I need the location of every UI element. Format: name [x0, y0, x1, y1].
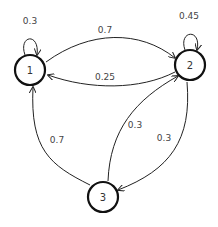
- edge-label: 0.3: [23, 16, 37, 26]
- edge-label: 0.7: [50, 135, 64, 145]
- edge-2-3: 0.3: [118, 82, 188, 190]
- edge-2-2: 0.45: [179, 11, 199, 50]
- edge-3-2: 0.3: [108, 76, 178, 181]
- edge-label: 0.3: [128, 120, 142, 130]
- node-label: 3: [100, 192, 106, 203]
- edge-label: 0.45: [179, 11, 199, 21]
- node-1: 1: [15, 55, 45, 85]
- node-2: 2: [175, 50, 205, 80]
- edge-label: 0.3: [157, 133, 171, 143]
- node-label: 1: [27, 65, 33, 76]
- edge-label: 0.25: [95, 72, 115, 82]
- edge-1-1: 0.3: [23, 16, 37, 55]
- edge-2-1: 0.25: [48, 72, 175, 86]
- edge-1-2: 0.7: [46, 25, 175, 62]
- node-3: 3: [88, 182, 118, 212]
- edge-label: 0.7: [98, 25, 112, 35]
- markov-chain-diagram: 0.3 0.7 0.45 0.25 0.3 0.3 0.7 1 2 3: [0, 0, 218, 227]
- edge-3-1: 0.7: [33, 87, 90, 185]
- node-label: 2: [187, 60, 193, 71]
